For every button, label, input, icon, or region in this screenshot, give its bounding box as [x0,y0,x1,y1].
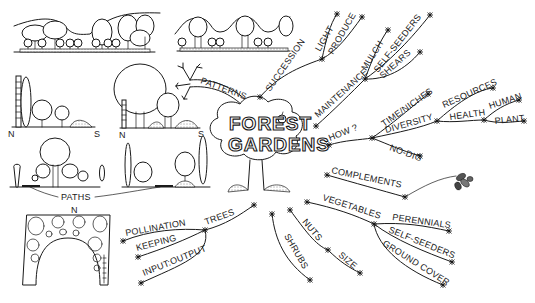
patterns-label: PATTERNS [199,75,248,101]
keeping-label: KEEPING [135,233,178,253]
forest-gardens-mind-map: N S N S [0,0,535,303]
no-dig-label: NO-DIG [388,142,423,163]
trees-label: TREES [203,207,236,227]
vegetables-label: VEGETABLES [321,192,382,220]
paths-sketch-right [122,136,210,187]
complements-branch: COMPLEMENTS [324,165,473,200]
vegetables-branch: VEGETABLES PERENNIALS SELF-SEEDERS GROUN… [304,192,457,288]
paths-annotation: PATHS [30,187,160,202]
nuts-branch: NUTS SIZE [287,207,363,276]
pollination-label: POLLINATION [125,218,187,238]
human-label: HUMAN [488,91,523,111]
north-south-sketch-2: N S [114,64,204,140]
how-branch: HOW ? TIME/NICHES DIVERSITY NO-DIG RESOU… [326,77,527,164]
paths-sketch-left [10,138,105,187]
north-label-2: N [119,130,126,140]
garden-plan-sketch: N [23,205,110,285]
forest-profile-sketch [14,13,160,52]
north-label: N [8,129,15,139]
south-label: S [94,129,100,139]
shrubs-label: SHRUBS [282,232,310,271]
title-line-2: GARDENS [228,134,330,155]
paths-label: PATHS [61,192,91,202]
central-topic: FOREST GARDENS [210,96,330,192]
leaf-cluster-icon [454,172,473,191]
trees-branch: TREES POLLINATION KEEPING INPUT:OUTPUT [120,202,257,286]
patterns-branch: PATTERNS [176,63,248,105]
title-line-1: FOREST [229,113,312,134]
maintenance-label: MAINTENANCE [313,67,370,120]
plan-north-label: N [71,205,78,215]
canopy-wave-sketch [175,16,293,51]
plant-label: PLANT [494,113,525,126]
north-south-sketch-1: N S [8,76,100,139]
